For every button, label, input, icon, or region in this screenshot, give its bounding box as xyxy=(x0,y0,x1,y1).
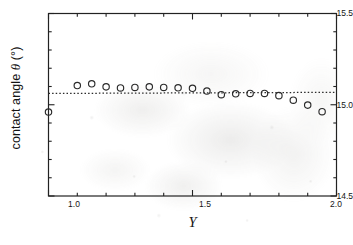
data-point-marker xyxy=(175,85,181,91)
data-point-marker xyxy=(290,97,296,103)
axis-ticks xyxy=(49,14,337,197)
data-point-marker xyxy=(117,85,123,91)
data-point-marker xyxy=(233,91,239,97)
data-point-marker xyxy=(276,92,282,98)
data-point-marker xyxy=(103,84,109,90)
contact-angle-scatter-figure: contact angle θ (°) Y 15.5 15.0 14.5 1.0… xyxy=(0,0,353,245)
reference-dotted-line xyxy=(49,92,337,93)
data-point-marker xyxy=(305,102,311,108)
data-points xyxy=(45,81,325,116)
data-point-marker xyxy=(204,88,210,94)
data-point-marker xyxy=(189,85,195,91)
plot-area xyxy=(0,0,353,245)
reference-line xyxy=(49,92,337,93)
data-point-marker xyxy=(319,108,325,114)
data-point-marker xyxy=(89,81,95,87)
data-point-marker xyxy=(132,84,138,90)
data-point-marker xyxy=(74,82,80,88)
data-point-marker xyxy=(247,90,253,96)
plot-frame xyxy=(49,14,337,197)
data-point-marker xyxy=(261,90,267,96)
data-point-marker xyxy=(161,84,167,90)
data-point-marker xyxy=(146,84,152,90)
